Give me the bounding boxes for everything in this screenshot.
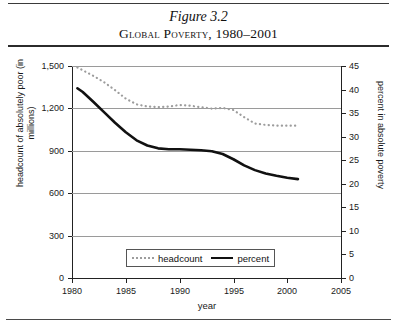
right-tick-45 — [342, 66, 346, 67]
right-tick-25 — [342, 160, 346, 161]
dotted-line-icon — [132, 257, 154, 259]
x-tick-1980 — [72, 279, 73, 283]
legend-item-headcount: headcount — [132, 253, 202, 264]
right-axis-label-0: 0 — [349, 274, 354, 283]
top-rule — [8, 3, 389, 4]
chart-area: 1,500 1,200 900 600 300 0 45 40 35 30 25… — [0, 52, 397, 314]
cut-off-source-text — [8, 322, 388, 328]
left-axis-label-0: 0 — [59, 274, 64, 283]
x-axis-title: year — [72, 300, 342, 311]
right-axis-label-35: 35 — [349, 109, 359, 118]
x-axis-label-2005: 2005 — [321, 286, 361, 296]
left-axis-label-300: 300 — [49, 232, 64, 241]
right-tick-35 — [342, 113, 346, 114]
chart-legend: headcount percent — [126, 249, 275, 267]
left-axis-label-600: 600 — [49, 189, 64, 198]
right-tick-10 — [342, 231, 346, 232]
figure-header: Figure 3.2 Global Poverty, 1980–2001 — [0, 8, 397, 42]
right-axis-label-40: 40 — [349, 86, 359, 95]
right-axis-label-15: 15 — [349, 203, 359, 212]
right-axis-line — [341, 66, 342, 279]
figure-title: Global Poverty, 1980–2001 — [0, 25, 397, 42]
right-axis-label-20: 20 — [349, 180, 359, 189]
left-axis-label-900: 900 — [49, 147, 64, 156]
right-axis-label-30: 30 — [349, 133, 359, 142]
left-axis-label-1200: 1,200 — [41, 104, 64, 113]
right-axis-label-25: 25 — [349, 156, 359, 165]
right-axis-label-5: 5 — [349, 250, 354, 259]
title-rule — [8, 45, 389, 47]
right-tick-0 — [342, 278, 346, 279]
x-axis-label-1985: 1985 — [106, 286, 146, 296]
right-tick-15 — [342, 207, 346, 208]
figure-number: Figure 3.2 — [0, 8, 397, 25]
x-tick-1990 — [180, 279, 181, 283]
right-axis-label-10: 10 — [349, 227, 359, 236]
bottom-rule — [6, 319, 391, 320]
right-tick-30 — [342, 137, 346, 138]
legend-label-headcount: headcount — [158, 253, 202, 264]
x-tick-2005 — [341, 279, 342, 283]
left-axis-title-line1: headcount of absolutely poor (in million… — [15, 59, 36, 187]
solid-line-icon — [211, 257, 233, 259]
left-axis-title: headcount of absolutely poor (in million… — [15, 53, 37, 193]
series-percent-line — [77, 88, 298, 179]
right-axis-label-45: 45 — [349, 62, 359, 71]
x-tick-2000 — [287, 279, 288, 283]
right-tick-20 — [342, 184, 346, 185]
right-tick-40 — [342, 90, 346, 91]
left-axis-label-1500: 1,500 — [41, 62, 64, 71]
x-axis-label-1995: 1995 — [214, 286, 254, 296]
legend-item-percent: percent — [211, 253, 269, 264]
right-tick-5 — [342, 254, 346, 255]
right-axis-title: percent in absolute poverty — [376, 65, 386, 205]
series-canvas — [72, 66, 341, 279]
x-tick-1995 — [234, 279, 235, 283]
figure-page: Figure 3.2 Global Poverty, 1980–2001 1,5… — [0, 0, 397, 330]
x-tick-1985 — [126, 279, 127, 283]
x-axis-label-2000: 2000 — [267, 286, 307, 296]
x-axis-label-1980: 1980 — [52, 286, 92, 296]
x-axis-label-1990: 1990 — [160, 286, 200, 296]
legend-label-percent: percent — [237, 253, 269, 264]
